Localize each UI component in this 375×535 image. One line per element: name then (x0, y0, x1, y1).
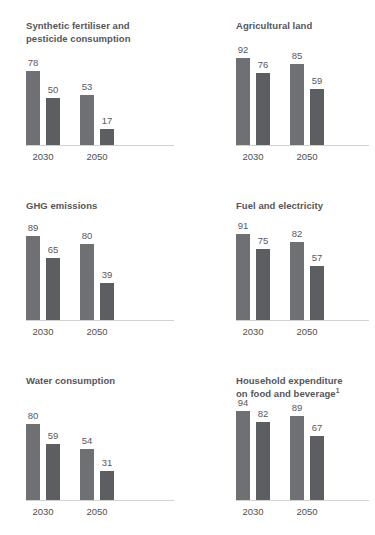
bar-value-label: 59 (312, 75, 323, 86)
bar-value-label: 54 (82, 435, 93, 446)
bar: 76 (256, 73, 270, 145)
chart-panel: Synthetic fertiliser andpesticide consum… (0, 0, 188, 180)
bar-value-label: 53 (82, 81, 93, 92)
chart-panel: GHG emissions2030896520508039 (0, 180, 188, 355)
chart-panel: Agricultural land2030927620508559 (188, 0, 375, 180)
x-axis-tick-label: 2030 (236, 506, 270, 517)
bar-value-label: 76 (258, 59, 269, 70)
x-axis-tick-label: 2030 (26, 151, 60, 162)
bar: 17 (100, 129, 114, 145)
chart-panel: Fuel and electricity2030917520508257 (188, 180, 375, 355)
bar-value-label: 89 (28, 222, 39, 233)
bar-value-label: 82 (292, 228, 303, 239)
bar: 31 (100, 471, 114, 500)
bar: 78 (26, 71, 40, 145)
bar-value-label: 59 (48, 430, 59, 441)
bar: 39 (100, 283, 114, 320)
bar: 82 (256, 422, 270, 500)
footnote-marker: 1 (336, 386, 340, 393)
bar-value-label: 17 (102, 115, 113, 126)
bar: 92 (236, 58, 250, 145)
x-axis-tick-label: 2030 (26, 506, 60, 517)
panel-title: Fuel and electricity (236, 200, 375, 213)
bar-value-label: 65 (48, 244, 59, 255)
x-axis-tick-label: 2050 (80, 506, 114, 517)
bar: 65 (46, 258, 60, 320)
bar-value-label: 31 (102, 457, 113, 468)
plot-area: 2030917520508257 (236, 225, 366, 321)
bar: 85 (290, 64, 304, 145)
bar-value-label: 50 (48, 84, 59, 95)
axis-baseline (236, 145, 369, 146)
chart-panel: Water consumption2030805920505431 (0, 355, 188, 535)
bar: 67 (310, 436, 324, 500)
axis-baseline (236, 320, 369, 321)
bar: 80 (80, 244, 94, 320)
x-axis-tick-label: 2050 (290, 151, 324, 162)
bar-value-label: 89 (292, 402, 303, 413)
bar: 50 (46, 98, 60, 146)
bar-value-label: 82 (258, 408, 269, 419)
axis-baseline (26, 320, 174, 321)
bar: 59 (310, 89, 324, 145)
plot-area: 2030896520508039 (26, 225, 174, 321)
x-axis-tick-label: 2050 (80, 151, 114, 162)
x-axis-tick-label: 2030 (236, 326, 270, 337)
plot-area: 2030785020505317 (26, 50, 174, 146)
bar-value-label: 92 (238, 44, 249, 55)
bar-value-label: 67 (312, 422, 323, 433)
plot-area: 2030805920505431 (26, 405, 174, 501)
bar: 75 (256, 249, 270, 320)
bar-value-label: 80 (82, 230, 93, 241)
bar: 89 (290, 416, 304, 501)
bar-value-label: 57 (312, 252, 323, 263)
axis-baseline (26, 500, 174, 501)
x-axis-tick-label: 2030 (26, 326, 60, 337)
axis-baseline (236, 500, 369, 501)
bar-value-label: 94 (238, 397, 249, 408)
x-axis-tick-label: 2050 (80, 326, 114, 337)
bar: 82 (290, 242, 304, 320)
bar: 80 (26, 424, 40, 500)
bar-value-label: 80 (28, 410, 39, 421)
panel-title: Household expenditureon food and beverag… (236, 375, 375, 400)
chart-panel: Household expenditureon food and beverag… (188, 355, 375, 535)
panel-title: Synthetic fertiliser andpesticide consum… (26, 20, 176, 45)
panel-title: GHG emissions (26, 200, 176, 213)
bar: 57 (310, 266, 324, 320)
plot-area: 2030948220508967 (236, 405, 366, 501)
bar: 53 (80, 95, 94, 145)
chart-grid: Synthetic fertiliser andpesticide consum… (0, 0, 375, 535)
panel-title: Water consumption (26, 375, 176, 388)
axis-baseline (26, 145, 174, 146)
x-axis-tick-label: 2050 (290, 326, 324, 337)
bar: 89 (26, 236, 40, 321)
bar: 94 (236, 411, 250, 500)
bar-value-label: 75 (258, 235, 269, 246)
x-axis-tick-label: 2030 (236, 151, 270, 162)
bar: 54 (80, 449, 94, 500)
bar-value-label: 39 (102, 269, 113, 280)
bar: 91 (236, 234, 250, 321)
bar-value-label: 91 (238, 220, 249, 231)
panel-title: Agricultural land (236, 20, 375, 33)
bar: 59 (46, 444, 60, 500)
plot-area: 2030927620508559 (236, 50, 366, 146)
bar-value-label: 78 (28, 57, 39, 68)
bar-value-label: 85 (292, 50, 303, 61)
x-axis-tick-label: 2050 (290, 506, 324, 517)
